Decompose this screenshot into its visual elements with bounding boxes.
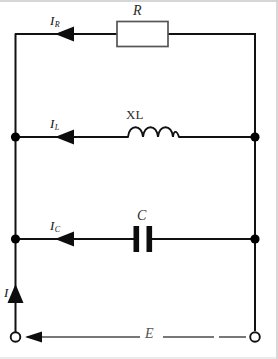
current-label-inductive-subscript: L bbox=[55, 123, 59, 132]
total-current-arrow bbox=[8, 284, 24, 303]
current-label-resistive-subscript: R bbox=[55, 20, 60, 29]
frame-border bbox=[0, 0, 278, 359]
inductor-label: XL bbox=[126, 108, 143, 121]
junction-dot-inductive-right bbox=[250, 132, 259, 141]
resistor-symbol bbox=[117, 22, 168, 47]
voltage-arrow-source bbox=[25, 332, 42, 343]
junction-dot-inductive-left bbox=[11, 132, 20, 141]
current-label-resistive: IR bbox=[50, 14, 59, 27]
resistor-label: R bbox=[133, 4, 142, 18]
inductor-symbol bbox=[128, 127, 179, 137]
circuit-schematic-svg bbox=[0, 0, 278, 359]
source-voltage-label: E bbox=[145, 327, 154, 341]
current-label-capacitive-symbol: I bbox=[50, 218, 54, 233]
current-label-inductive: IL bbox=[50, 117, 59, 130]
current-label-inductive-symbol: I bbox=[50, 116, 54, 131]
capacitor-label: C bbox=[137, 209, 146, 223]
current-label-capacitive: IC bbox=[50, 219, 60, 232]
junction-dot-capacitive-right bbox=[250, 234, 259, 243]
capacitor-symbol bbox=[134, 226, 153, 252]
open-terminal-left bbox=[11, 332, 21, 342]
total-current-label: I bbox=[4, 286, 8, 299]
open-terminal-right bbox=[250, 332, 260, 342]
junction-dot-capacitive-left bbox=[11, 234, 20, 243]
circuit-diagram-canvas: R IR XL IL C IC I E bbox=[0, 0, 278, 359]
current-label-capacitive-subscript: C bbox=[55, 225, 60, 234]
current-label-resistive-symbol: I bbox=[50, 13, 54, 28]
